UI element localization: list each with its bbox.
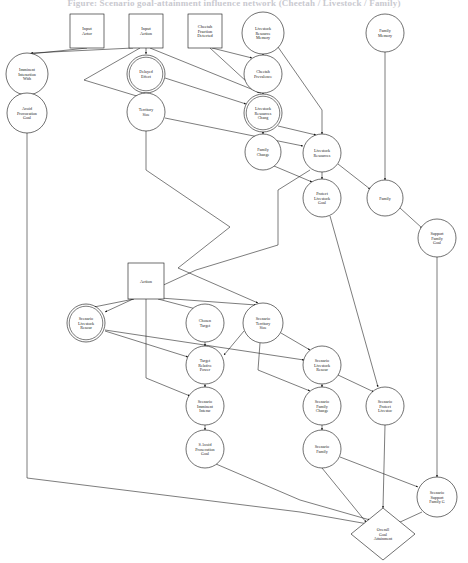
node-label-target_rel_power: TargetRelativePower — [198, 358, 212, 373]
node-label-sc_family_change: ScenarioFamilyChange — [315, 399, 329, 414]
edge-action-to-chosen_target — [158, 299, 196, 309]
node-label-sc_protect_lv: ScenarioProtectLivestoc — [378, 399, 392, 414]
edge-sc_territory_size-to-target_rel_power — [224, 331, 244, 355]
node-avoid_prov_goal[interactable]: AvoidProvocationGoal — [7, 93, 47, 133]
node-label-action: Action — [140, 279, 153, 284]
node-action[interactable]: Action — [128, 263, 164, 299]
node-sc_imminent_inter[interactable]: ScenarioImminentInterac — [186, 387, 224, 425]
node-target_rel_power[interactable]: TargetRelativePower — [186, 346, 224, 384]
edge-livestock_res_mem-to-livestock_res — [278, 47, 322, 134]
node-input_action[interactable]: InputAction — [129, 14, 163, 48]
edge-s_avoid_prov_goal-to-overall_goal — [216, 464, 370, 520]
node-sc_support_fam[interactable]: ScenarioSupportFamily G — [417, 477, 457, 517]
node-label-livestock_res: LivestockResources — [314, 148, 331, 158]
node-sc_family[interactable]: ScenarioFamily — [303, 430, 341, 468]
node-sc_territory_size[interactable]: ScenarioTerritorySize — [243, 303, 283, 343]
node-s_avoid_prov_goal[interactable]: S AvoidProsecutionGoal — [186, 430, 224, 468]
node-layer: InputActorInputActionCheetahFractionDete… — [6, 12, 457, 560]
node-protect_lv_goal[interactable]: ProtectLivestockGoal — [303, 179, 341, 217]
edge-family_change-to-protect_lv_goal — [274, 166, 312, 182]
edge-sc_livestock_res-to-target_rel_power — [105, 331, 188, 357]
node-support_fam_goal[interactable]: SupportFamilyGoal — [418, 219, 456, 257]
node-imminent_inter[interactable]: ImminentInteractionWith — [6, 53, 48, 95]
node-label-delayed_effect: DelayedEffect — [139, 69, 153, 79]
edge-sc_territory_size-to-sc_family_change — [258, 343, 310, 391]
edge-action-to-sc_imminent_inter — [146, 299, 190, 396]
node-label-cheetah_prev: CheetahPrevalence — [254, 69, 272, 79]
node-cheetah_fraction[interactable]: CheetahFractionDetected — [188, 14, 222, 48]
diagram-canvas: Figure: Scenario goal-attainment influen… — [0, 0, 468, 563]
node-label-livestock_res_mem: LivestockResourceMemory — [255, 26, 272, 41]
node-chosen_target[interactable]: ChosenTarget — [186, 304, 224, 342]
edge-cheetah_fraction-to-cheetah_prev — [212, 48, 252, 58]
node-label-sc_support_fam: ScenarioSupportFamily G — [429, 490, 445, 505]
edge-sc_family-to-sc_support_fam — [340, 457, 418, 487]
node-sc_family_change[interactable]: ScenarioFamilyChange — [303, 387, 341, 425]
edge-sc_livestock_res2-to-sc_protect_lv — [338, 375, 374, 392]
edge-sc_territory_size-to-sc_livestock_res2 — [281, 333, 310, 350]
edge-sc_support_fam-to-overall_goal — [398, 512, 422, 523]
node-label-input_actor: InputActor — [82, 26, 93, 36]
edge-action-to-sc_livestock_res — [94, 299, 134, 307]
edge-family-to-support_fam_goal — [400, 208, 422, 228]
node-family[interactable]: Family — [367, 180, 403, 216]
edge-layer — [27, 47, 437, 524]
node-label-family_memory: FamilyMemory — [378, 28, 393, 38]
node-livestock_res_chg[interactable]: LivestockResourcesChang — [244, 94, 282, 132]
node-cheetah_prev[interactable]: CheetahPrevalence — [244, 55, 282, 93]
node-family_memory[interactable]: FamilyMemory — [366, 14, 404, 52]
edge-livestock_res-to-family — [338, 164, 370, 189]
node-sc_livestock_res[interactable]: ScenarioLivestockResour — [67, 304, 105, 342]
node-livestock_res_mem[interactable]: LivestockResourceMemory — [242, 12, 284, 54]
edge-input_actor-to-imminent_inter — [30, 48, 87, 54]
edge-sc_protect_lv-to-overall_goal — [383, 425, 385, 508]
node-sc_livestock_res2[interactable]: ScenarioLivestockResour — [303, 346, 341, 384]
node-territory_size[interactable]: TerritorySize — [127, 93, 165, 131]
node-sc_protect_lv[interactable]: ScenarioProtectLivestoc — [366, 387, 404, 425]
node-label-sc_family: ScenarioFamily — [315, 444, 329, 454]
node-label-cheetah_fraction: CheetahFractionDetected — [197, 24, 213, 39]
edge-livestock_res_chg-to-livestock_res — [278, 126, 316, 135]
node-label-family_change: FamilyChange — [257, 147, 270, 157]
node-livestock_res[interactable]: LivestockResources — [303, 134, 341, 172]
node-label-chosen_target: ChosenTarget — [199, 318, 211, 328]
influence-graph: InputActorInputActionCheetahFractionDete… — [0, 0, 468, 563]
node-delayed_effect[interactable]: DelayedEffect — [127, 55, 165, 93]
edge-territory_size-to-livestock_res — [165, 118, 303, 146]
node-label-family: Family — [379, 196, 392, 201]
node-input_actor[interactable]: InputActor — [70, 14, 104, 48]
node-family_change[interactable]: FamilyChange — [245, 134, 281, 170]
edge-sc_family-to-overall_goal — [322, 468, 366, 522]
